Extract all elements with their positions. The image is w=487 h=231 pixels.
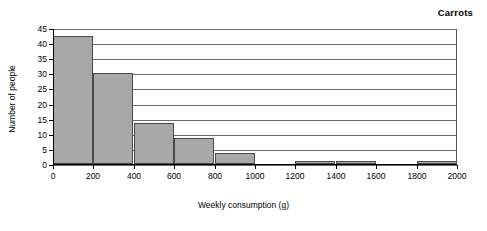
x-tick-label: 1800 xyxy=(408,171,427,181)
x-tick-label: 1400 xyxy=(327,171,346,181)
x-tick-mark xyxy=(174,165,175,169)
x-tick-label: 400 xyxy=(127,171,141,181)
x-tick-label: 600 xyxy=(167,171,181,181)
x-axis-label: Weekly consumption (g) xyxy=(0,200,487,210)
y-axis-label: Number of people xyxy=(5,38,19,160)
x-tick-mark xyxy=(93,165,94,169)
y-tick-label: 20 xyxy=(38,100,47,110)
x-tick-mark xyxy=(255,165,256,169)
bar xyxy=(174,138,214,164)
y-tick-label: 0 xyxy=(42,160,47,170)
x-tick-label: 200 xyxy=(86,171,100,181)
chart-title: Carrots xyxy=(438,7,473,18)
y-tick-label: 5 xyxy=(42,145,47,155)
x-tick-mark xyxy=(53,165,54,169)
x-tick-label: 1600 xyxy=(367,171,386,181)
y-tick-label: 15 xyxy=(38,115,47,125)
x-tick-label: 1200 xyxy=(286,171,305,181)
y-tick-label: 10 xyxy=(38,130,47,140)
x-tick-label: 800 xyxy=(208,171,222,181)
bar xyxy=(215,153,255,164)
y-axis-line xyxy=(53,29,54,165)
y-tick-label: 40 xyxy=(38,39,47,49)
x-tick-mark xyxy=(336,165,337,169)
gridline xyxy=(53,59,457,60)
x-tick-label: 1000 xyxy=(246,171,265,181)
x-axis-line xyxy=(53,164,457,165)
chart-figure: Carrots Number of people 051015202530354… xyxy=(0,0,487,231)
x-tick-label: 0 xyxy=(51,171,56,181)
x-tick-mark xyxy=(417,165,418,169)
y-tick-label: 25 xyxy=(38,84,47,94)
y-tick-label: 30 xyxy=(38,69,47,79)
bar xyxy=(93,73,133,164)
bar xyxy=(134,123,174,164)
gridline xyxy=(53,29,457,30)
x-tick-mark xyxy=(215,165,216,169)
y-axis-label-text: Number of people xyxy=(7,65,17,133)
plot-right-border xyxy=(456,29,457,165)
x-tick-mark xyxy=(134,165,135,169)
x-tick-mark xyxy=(457,165,458,169)
x-tick-label: 2000 xyxy=(448,171,467,181)
plot-area: 051015202530354045 020040060080010001200… xyxy=(53,29,457,165)
bar xyxy=(53,36,93,164)
x-tick-mark xyxy=(376,165,377,169)
y-tick-label: 35 xyxy=(38,54,47,64)
y-tick-label: 45 xyxy=(38,24,47,34)
x-tick-mark xyxy=(295,165,296,169)
gridline xyxy=(53,44,457,45)
